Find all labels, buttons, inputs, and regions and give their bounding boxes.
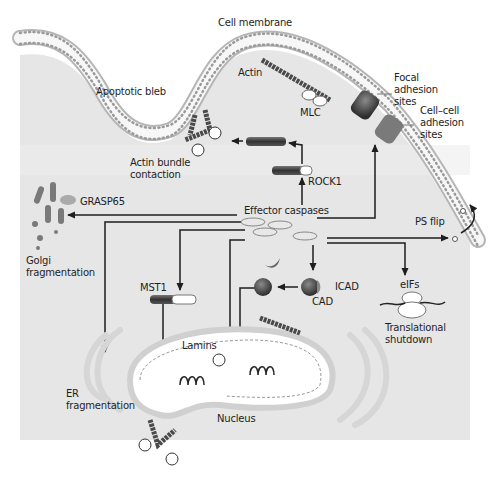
label-golgi-fragmentation: Golgi fragmentation (26, 255, 95, 279)
rock1-rod (272, 166, 304, 175)
nuclear-envelope (130, 329, 332, 416)
label-lamins: Lamins (182, 340, 217, 352)
label-cad: CAD (312, 296, 333, 308)
label-focal-adhesion: Focal adhesion sites (394, 72, 438, 108)
label-mlc: MLC (300, 107, 321, 119)
label-eifs: eIFs (400, 279, 419, 291)
phospho-icon (209, 127, 221, 139)
label-mst1: MST1 (140, 282, 167, 294)
label-nucleus: Nucleus (217, 413, 255, 425)
cad-icad-icon (301, 278, 319, 296)
cad-icon (254, 278, 272, 296)
label-icad: ICAD (335, 281, 359, 293)
label-translational-shutdown: Translational shutdown (385, 322, 446, 346)
label-apoptotic-bleb: Apoptotic bleb (96, 86, 166, 98)
label-grasp65: GRASP65 (80, 196, 125, 208)
ribosome-icon (398, 292, 426, 318)
label-cell-membrane: Cell membrane (218, 17, 292, 29)
active-rock1 (246, 137, 286, 146)
label-actin-bundle: Actin bundle contaction (130, 157, 190, 181)
label-rock1: ROCK1 (308, 176, 342, 188)
label-cell-cell-adhesion: Cell–cell adhesion sites (420, 105, 464, 141)
label-actin: Actin (238, 67, 262, 79)
label-effector-caspases: Effector caspases (244, 205, 329, 217)
label-er-fragmentation: ER fragmentation (66, 388, 135, 412)
label-ps-flip: PS flip (415, 216, 445, 228)
